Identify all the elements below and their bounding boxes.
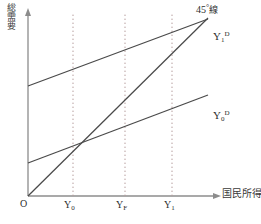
curves-group	[28, 18, 208, 196]
curve-label-y0-demand: Y0D	[213, 110, 230, 123]
curve-label-45-suffix: 線	[209, 5, 218, 15]
x-axis-title: 国民所得	[222, 189, 261, 199]
x-axis-arrow-icon	[213, 193, 221, 199]
x-tick-y1-subscript: 1	[171, 204, 175, 212]
origin-label: O	[20, 199, 27, 209]
y-axis-title: 総需要	[2, 3, 15, 30]
gridlines-group	[73, 14, 172, 196]
curve-label-y1-demand: Y1D	[213, 31, 230, 44]
curve-y1-demand	[28, 19, 208, 86]
curve-label-y0-superscript: D	[224, 109, 229, 117]
x-tick-yf-subscript: F	[123, 204, 127, 212]
curve-45-degree-line	[28, 18, 208, 196]
y-axis-arrow-icon	[25, 8, 31, 16]
x-tick-label-yf: YF	[116, 200, 127, 212]
curve-label-45-degree-line: 45°線	[196, 4, 218, 15]
curve-label-y1-base: Y	[213, 30, 221, 42]
x-tick-label-y0: Y0	[64, 200, 75, 212]
curve-label-45-base: 45	[196, 4, 206, 15]
curve-label-y0-base: Y	[213, 109, 221, 121]
x-tick-label-y1: Y1	[164, 200, 175, 212]
curve-label-y1-superscript: D	[224, 30, 229, 38]
curve-y0-demand	[28, 95, 208, 163]
keynesian-cross-diagram: 総需要 国民所得 45°線 Y1D Y0D O Y0 YF Y1	[0, 0, 261, 224]
x-tick-y0-subscript: 0	[71, 204, 75, 212]
